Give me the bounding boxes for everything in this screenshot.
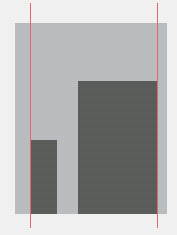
figure-canvas (0, 0, 177, 235)
figure-caption (0, 0, 1, 1)
bar-2 (78, 81, 157, 214)
guide-line-right (157, 3, 158, 228)
guide-line-left (30, 3, 31, 228)
bar-1 (30, 140, 57, 214)
